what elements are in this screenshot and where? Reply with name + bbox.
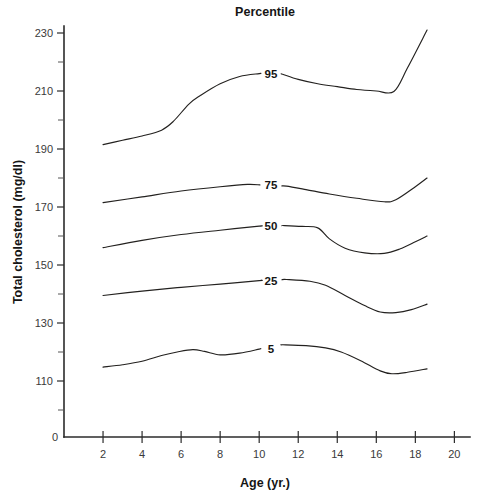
x-axis-title: Age (yr.): [240, 476, 290, 490]
y-axis-zero-label: 0: [52, 431, 58, 443]
curve-percentile-25-seg1: [103, 280, 262, 295]
y-tick-label-150: 150: [35, 259, 53, 271]
y-tick-label-110: 110: [35, 375, 53, 387]
x-tick-label-2: 2: [100, 448, 106, 460]
curve-percentile-50-seg2: [282, 226, 427, 254]
x-tick-label-20: 20: [448, 448, 460, 460]
curve-percentile-5-seg2: [281, 345, 427, 374]
curve-percentile-25-seg2: [282, 279, 427, 312]
x-tick-label-8: 8: [217, 448, 223, 460]
x-tick-label-14: 14: [331, 448, 343, 460]
y-tick-label-170: 170: [35, 201, 53, 213]
y-tick-label-190: 190: [35, 143, 53, 155]
y-axis-title: Total cholesterol (mg/dl): [11, 160, 25, 304]
x-tick-label-10: 10: [253, 448, 265, 460]
curve-percentile-5-seg1: [103, 349, 261, 367]
series-percentile-labels: 957550255: [265, 68, 278, 355]
x-tick-label-6: 6: [178, 448, 184, 460]
x-axis-tick-labels: 2468101214161820: [100, 448, 461, 460]
curve-percentile-75-seg1: [103, 184, 260, 202]
y-axis-tick-labels: 110130150170190210230: [35, 27, 53, 387]
chart-title: Percentile: [235, 5, 295, 19]
x-tick-label-18: 18: [409, 448, 421, 460]
curve-percentile-95-seg1: [103, 73, 261, 144]
y-tick-label-130: 130: [35, 317, 53, 329]
series-label-percentile-75: 75: [265, 179, 278, 191]
x-tick-label-16: 16: [370, 448, 382, 460]
x-tick-label-12: 12: [292, 448, 304, 460]
curve-percentile-50-seg1: [103, 226, 262, 248]
curve-percentile-75-seg2: [282, 178, 427, 202]
series-label-percentile-95: 95: [265, 68, 278, 80]
y-tick-label-230: 230: [35, 27, 53, 39]
curve-percentile-95-seg2: [281, 30, 427, 93]
x-tick-label-4: 4: [139, 448, 145, 460]
data-series-curves: [103, 30, 427, 374]
series-label-percentile-50: 50: [265, 220, 278, 232]
chart-container: 110130150170190210230 2468101214161820 9…: [0, 0, 480, 499]
y-axis-ticks: [57, 33, 64, 410]
y-tick-label-210: 210: [35, 85, 53, 97]
percentile-line-chart: 110130150170190210230 2468101214161820 9…: [0, 0, 480, 499]
series-label-percentile-5: 5: [268, 343, 275, 355]
series-label-percentile-25: 25: [265, 275, 278, 287]
